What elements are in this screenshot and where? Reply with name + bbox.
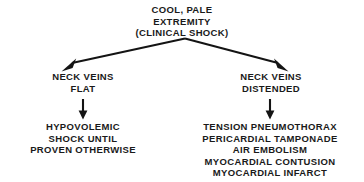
outcome-right-line-5: MYOCARDIAL INFARCT [178,167,362,179]
arrow-connector-right-outcome [266,99,275,120]
branch-left-line-1: NECK VEINS [0,71,166,83]
outcome-left-line-1: HYPOVOLEMIC [0,121,166,133]
root-node-line-1: COOL, PALE [0,4,364,16]
outcome-node-hypovolemic-shock: HYPOVOLEMIC SHOCK UNTIL PROVEN OTHERWISE [0,121,166,156]
root-node-line-3: (CLINICAL SHOCK) [0,27,364,39]
outcome-right-line-4: MYOCARDIAL CONTUSION [178,156,362,168]
outcome-left-line-3: PROVEN OTHERWISE [0,144,166,156]
branch-left-line-2: FLAT [0,83,166,95]
root-node-clinical-shock: COOL, PALE EXTREMITY (CLINICAL SHOCK) [0,4,364,39]
clinical-shock-flowchart: COOL, PALE EXTREMITY (CLINICAL SHOCK) NE… [0,0,364,182]
branch-right-line-1: NECK VEINS [188,71,354,83]
branch-right-line-2: DISTENDED [188,83,354,95]
branch-node-neck-veins-distended: NECK VEINS DISTENDED [188,71,354,94]
branch-node-neck-veins-flat: NECK VEINS FLAT [0,71,166,94]
outcome-left-line-2: SHOCK UNTIL [0,133,166,145]
root-node-line-2: EXTREMITY [0,16,364,28]
outcome-node-obstructive-causes: TENSION PNEUMOTHORAX PERICARDIAL TAMPONA… [178,121,362,179]
outcome-right-line-3: AIR EMBOLISM [178,144,362,156]
split-connector-left [62,39,186,72]
split-connector-right [185,39,289,72]
outcome-right-line-1: TENSION PNEUMOTHORAX [178,121,362,133]
arrow-connector-left-outcome [79,99,88,120]
outcome-right-line-2: PERICARDIAL TAMPONADE [178,133,362,145]
